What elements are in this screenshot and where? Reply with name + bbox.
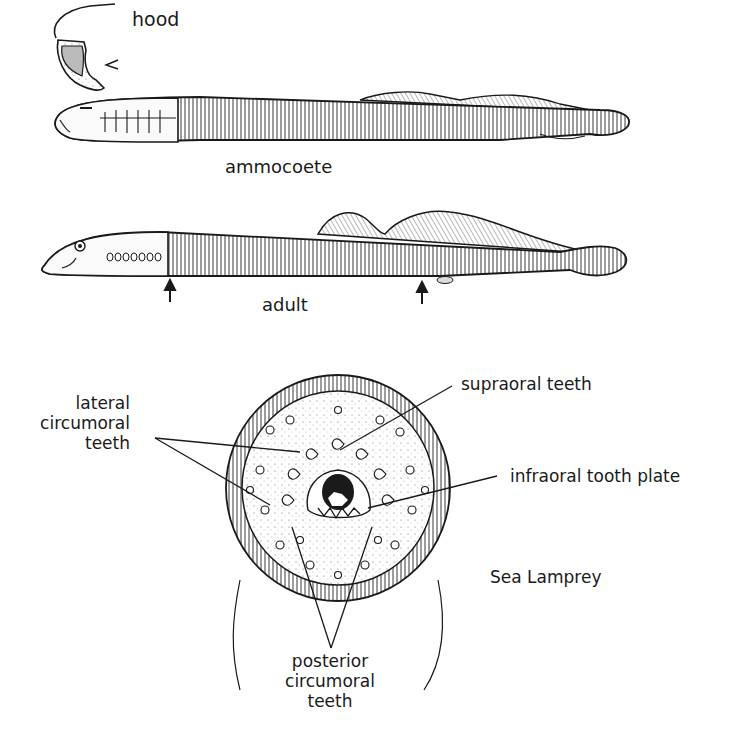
label-hood: hood bbox=[132, 9, 179, 29]
arrow-icon bbox=[165, 280, 175, 302]
label-lateral-line1: lateral bbox=[40, 393, 130, 413]
label-ammocoete: ammocoete bbox=[225, 157, 332, 177]
label-posterior-line3: teeth bbox=[270, 691, 390, 711]
hood-drawing bbox=[54, 4, 118, 90]
label-lateral-line2: circumoral bbox=[30, 413, 130, 433]
label-lateral-line3: teeth bbox=[40, 433, 130, 453]
label-infraoral-tooth-plate: infraoral tooth plate bbox=[510, 466, 680, 486]
label-posterior-line1: posterior bbox=[270, 651, 390, 671]
arrow-icon bbox=[417, 282, 427, 304]
label-supraoral-teeth: supraoral teeth bbox=[461, 374, 592, 394]
figure-title: Sea Lamprey bbox=[490, 567, 601, 587]
lamprey-illustration bbox=[0, 0, 733, 736]
ammocoete-drawing bbox=[55, 92, 629, 142]
oral-disc-drawing bbox=[226, 375, 450, 690]
label-posterior-line2: circumoral bbox=[270, 671, 390, 691]
adult-drawing bbox=[42, 211, 626, 304]
label-adult: adult bbox=[262, 295, 308, 315]
